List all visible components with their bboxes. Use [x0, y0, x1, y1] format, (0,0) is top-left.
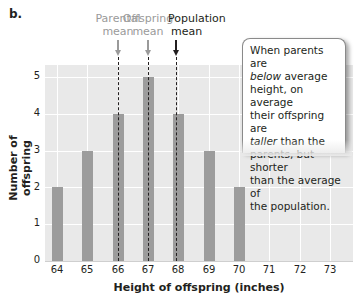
x-tick-72: 72: [290, 264, 310, 275]
x-axis-line: [45, 261, 353, 262]
x-tick-73: 73: [320, 264, 340, 275]
x-tick-68: 68: [168, 264, 188, 275]
offspring-mean-line: [148, 57, 149, 261]
callout-line-2: below average: [250, 70, 341, 83]
callout-line-8: the population.: [250, 200, 341, 213]
y-axis-label: Number of offspring: [7, 108, 33, 228]
callout-box: When parents are below average height, o…: [242, 38, 346, 153]
bar-64: [52, 187, 63, 261]
x-tick-70: 70: [229, 264, 249, 275]
x-tick-64: 64: [47, 264, 67, 275]
bar-65: [82, 151, 93, 261]
bar-68: [173, 114, 184, 261]
callout-emphasis-below: below: [250, 70, 281, 82]
callout-line-4: their offspring are: [250, 109, 341, 135]
x-tick-69: 69: [199, 264, 219, 275]
callout-fade: [240, 140, 352, 156]
bar-70: [234, 187, 245, 261]
x-tick-66: 66: [108, 264, 128, 275]
population-mean-line2: mean: [168, 25, 230, 38]
x-axis-label: Height of offspring (inches): [45, 281, 353, 294]
y-tick-0: 0: [26, 254, 40, 265]
x-tick-67: 67: [138, 264, 158, 275]
population-mean-line: [176, 57, 177, 261]
y-tick-5: 5: [26, 70, 40, 81]
bar-69: [204, 151, 215, 261]
parental-mean-line: [118, 57, 119, 261]
x-tick-71: 71: [259, 264, 279, 275]
callout-line-3: height, on average: [250, 83, 341, 109]
callout-line-7: than the average of: [250, 174, 341, 200]
panel-label: b.: [9, 7, 22, 21]
population-mean-label: Population mean: [168, 12, 230, 38]
population-mean-line1: Population: [168, 12, 230, 25]
x-tick-65: 65: [77, 264, 97, 275]
callout-line-1: When parents are: [250, 44, 341, 70]
